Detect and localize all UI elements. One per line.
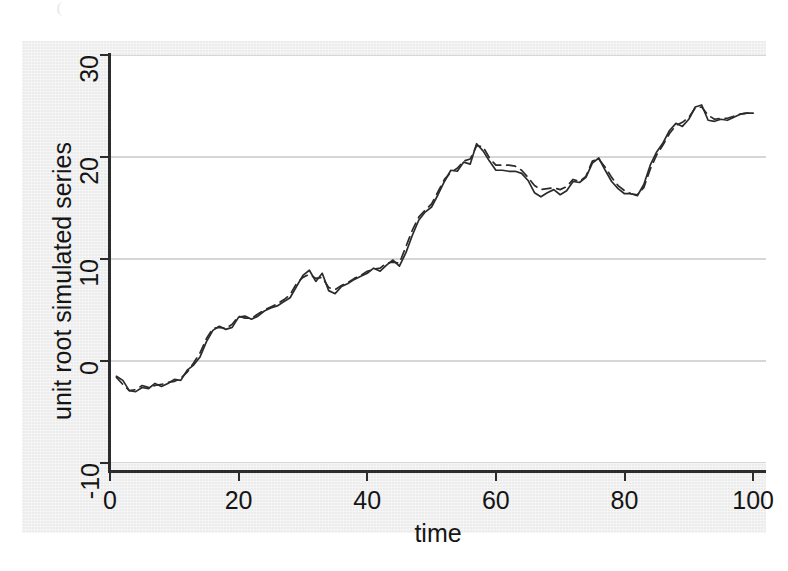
x-tick-60 [495,472,497,481]
y-axis-spine [108,53,111,472]
y-tick-label-20: 20 [76,157,105,185]
x-tick-0 [109,472,111,481]
x-axis-title: time [110,519,766,548]
chart-screenshot: -100102030020406080100 unit root simulat… [0,0,788,571]
x-tick-label-20: 20 [225,486,253,515]
x-tick-label-60: 60 [482,486,510,515]
x-tick-80 [624,472,626,481]
series-line-1 [116,105,753,392]
y-axis-title-text: unit root simulated series [48,142,77,420]
y-tick-label-10: 10 [76,259,105,287]
x-tick-label-0: 0 [103,486,117,515]
x-tick-label-100: 100 [732,486,774,515]
x-tick-40 [366,472,368,481]
scan-artifact-speck [57,2,69,16]
y-tick-label--10: -10 [76,463,105,499]
x-axis-spine [108,470,766,473]
x-axis-title-text: time [414,519,461,547]
x-tick-20 [238,472,240,481]
y-tick-label-0: 0 [76,361,105,375]
x-tick-100 [752,472,754,481]
x-tick-label-80: 80 [611,486,639,515]
series-canvas [110,55,766,463]
y-tick-label-30: 30 [76,55,105,83]
plot-area [110,55,766,463]
x-tick-label-40: 40 [353,486,381,515]
